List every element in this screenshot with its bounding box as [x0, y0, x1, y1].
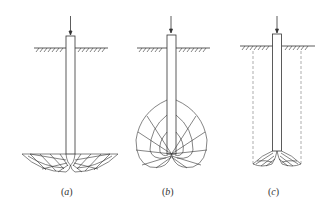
pile-c [273, 34, 282, 151]
panel-label-b: (b) [162, 186, 174, 197]
panel-a [22, 16, 118, 172]
panel-label-a: (a) [61, 186, 73, 197]
pile-a [66, 36, 75, 154]
failure-zone-c [253, 151, 301, 166]
panel-label-c: (c) [268, 186, 279, 197]
paren-close: ) [69, 186, 72, 197]
paren-close: ) [276, 186, 279, 197]
pile-b [167, 35, 176, 154]
paren-close: ) [170, 186, 173, 197]
pile-failure-diagram [0, 0, 330, 207]
failure-zone-a [22, 154, 118, 172]
panel-b [136, 16, 210, 168]
panel-c [240, 16, 315, 166]
